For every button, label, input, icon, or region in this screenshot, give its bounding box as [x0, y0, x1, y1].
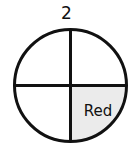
spinner-circle: Red	[0, 0, 133, 148]
center-dot	[69, 84, 73, 88]
spinner-diagram: 2 Red	[0, 0, 133, 148]
section-label-red: Red	[84, 102, 113, 120]
